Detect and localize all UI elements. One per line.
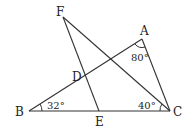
point-label-b: B: [15, 105, 24, 119]
point-label-a: A: [139, 24, 149, 38]
segment-fc: [63, 17, 170, 111]
segment-fe: [63, 17, 99, 111]
angle-arc-b: [40, 104, 42, 111]
geometry-diagram: A B C D E F 80° 32° 40°: [0, 0, 196, 131]
point-label-c: C: [173, 105, 182, 119]
angle-label-c: 40°: [138, 100, 156, 111]
angle-arc-c: [160, 104, 162, 111]
angle-label-b: 32°: [47, 100, 65, 111]
angle-label-a: 80°: [131, 52, 149, 63]
point-label-f: F: [56, 5, 64, 19]
angle-arc-a: [135, 44, 145, 47]
point-label-d: D: [72, 70, 82, 84]
point-label-e: E: [95, 115, 104, 129]
